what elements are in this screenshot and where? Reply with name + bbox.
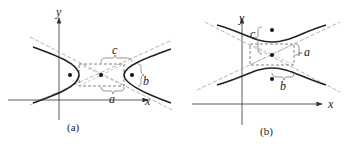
asymptote-1 <box>205 22 340 92</box>
caption-b: (b) <box>260 125 273 138</box>
panel-a: x y c b a (a) <box>8 5 172 134</box>
label-a: a <box>304 45 310 59</box>
label-b: b <box>280 79 286 93</box>
caption-a: (a) <box>67 121 80 134</box>
focus-upper <box>270 28 274 32</box>
label-c: c <box>250 27 256 41</box>
y-axis-label: y <box>238 11 245 25</box>
x-axis-label: x <box>327 97 334 111</box>
panel-b: x y c a b (b) <box>192 11 340 138</box>
label-c: c <box>112 43 118 57</box>
y-axis-label: y <box>55 5 62 19</box>
hyperbola-left-branch <box>33 47 79 103</box>
focus-lower <box>270 77 274 81</box>
label-b: b <box>143 74 149 88</box>
brace-a <box>295 44 302 56</box>
hyperbola-upper-branch <box>217 25 326 42</box>
focus-left <box>68 73 72 77</box>
label-a: a <box>109 92 115 106</box>
hyperbola-diagrams: x y c b a (a) x y <box>0 0 354 148</box>
center-point <box>99 73 103 77</box>
focus-right <box>130 73 134 77</box>
center-point <box>270 53 274 57</box>
